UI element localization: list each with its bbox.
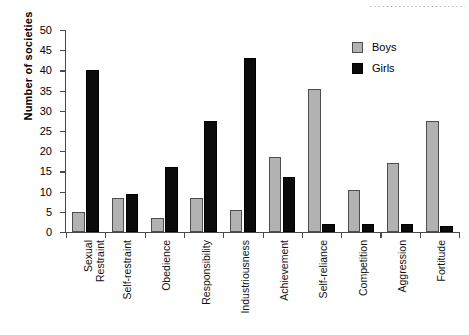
x-tick [223, 232, 224, 238]
x-tick [184, 232, 185, 238]
bar-boys-0 [72, 212, 85, 232]
x-axis-label: Achievement [278, 240, 290, 301]
y-tick-label: 0 [46, 226, 52, 238]
bar-girls-9 [440, 226, 453, 232]
x-axis-label: Aggression [396, 240, 408, 293]
scan-artifact-dots [369, 5, 465, 8]
x-axis-label: Responsibility [200, 240, 212, 305]
x-axis-label: Sexual [82, 240, 94, 272]
bar-girls-0 [86, 70, 99, 232]
bar-boys-5 [269, 157, 282, 232]
x-tick [380, 232, 381, 238]
y-tick: 50 [60, 30, 66, 31]
bar-boys-9 [426, 121, 439, 232]
x-tick [341, 232, 342, 238]
bar-girls-1 [126, 194, 139, 232]
legend-swatch-boys [352, 42, 363, 53]
bar-boys-1 [112, 198, 125, 232]
y-tick: 20 [60, 151, 66, 152]
y-tick: 45 [60, 50, 66, 51]
y-tick: 10 [60, 192, 66, 193]
y-tick-label: 30 [40, 105, 52, 117]
legend-swatch-girls [352, 63, 363, 74]
y-tick: 15 [60, 171, 66, 172]
y-tick-label: 5 [46, 206, 52, 218]
plot-area: 05101520253035404550 SexualRestraintSelf… [66, 30, 459, 232]
x-axis-label: Restraint [94, 240, 106, 282]
y-tick-label: 50 [40, 24, 52, 36]
y-tick: 35 [60, 91, 66, 92]
x-tick [263, 232, 264, 238]
y-tick: 25 [60, 131, 66, 132]
bar-girls-7 [362, 224, 375, 232]
x-tick [302, 232, 303, 238]
x-tick [105, 232, 106, 238]
legend-label-boys: Boys [372, 41, 396, 53]
y-tick-label: 40 [40, 64, 52, 76]
bar-girls-5 [283, 177, 296, 232]
bar-boys-8 [387, 163, 400, 232]
x-tick [145, 232, 146, 238]
x-axis-label: Fortitude [435, 240, 447, 281]
y-axis-title: Number of societies [22, 0, 34, 136]
x-tick [459, 232, 460, 238]
y-tick-label: 20 [40, 145, 52, 157]
y-tick: 30 [60, 111, 66, 112]
x-tick [420, 232, 421, 238]
y-tick: 40 [60, 70, 66, 71]
x-axis-label: Obedience [160, 240, 172, 291]
legend-item-girls: Girls [352, 62, 396, 74]
bar-boys-6 [308, 89, 321, 232]
bar-girls-3 [204, 121, 217, 232]
bar-boys-2 [151, 218, 164, 232]
x-axis-label: Competition [357, 240, 369, 296]
y-tick: 5 [60, 212, 66, 213]
legend: Boys Girls [352, 41, 396, 83]
bar-boys-3 [190, 198, 203, 232]
x-tick [66, 232, 67, 238]
bar-girls-2 [165, 167, 178, 232]
bar-chart: Number of societies 05101520253035404550… [0, 0, 469, 335]
bar-girls-4 [244, 58, 257, 232]
bar-boys-4 [230, 210, 243, 232]
y-tick-label: 25 [40, 125, 52, 137]
legend-item-boys: Boys [352, 41, 396, 53]
y-tick-label: 10 [40, 186, 52, 198]
legend-label-girls: Girls [372, 62, 395, 74]
bar-boys-7 [348, 190, 361, 232]
bar-girls-6 [322, 224, 335, 232]
y-tick-label: 15 [40, 165, 52, 177]
x-axis-label: Industriousness [239, 240, 251, 314]
bar-girls-8 [401, 224, 414, 232]
y-tick-label: 35 [40, 85, 52, 97]
x-axis-label: Self-reliance [317, 240, 329, 298]
y-tick-label: 45 [40, 44, 52, 56]
x-axis-label: Self-restraint [121, 240, 133, 300]
